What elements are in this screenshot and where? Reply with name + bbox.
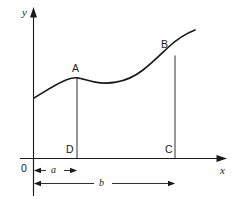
point-label-c: C xyxy=(165,144,173,154)
dimension-a-right-arrowhead xyxy=(70,168,77,173)
dimension-label-b: b xyxy=(99,178,104,188)
dimension-b xyxy=(34,179,175,189)
y-axis-label: y xyxy=(22,7,27,17)
drop-lines xyxy=(77,56,175,159)
x-axis-arrowhead xyxy=(217,155,228,162)
dimension-a-left-arrowhead xyxy=(34,168,41,173)
dimension-label-a: a xyxy=(51,165,56,175)
origin-label: 0 xyxy=(21,163,27,173)
figure-container: y x 0 A B D C a b xyxy=(0,0,239,199)
y-axis-arrowhead xyxy=(30,7,37,18)
dimension-b-left-arrowhead xyxy=(34,181,41,186)
dimension-b-right-arrowhead xyxy=(168,181,175,186)
curve-path xyxy=(34,30,195,98)
point-label-a: A xyxy=(72,63,79,73)
function-curve xyxy=(34,30,195,98)
point-label-b: B xyxy=(161,39,168,49)
x-axis xyxy=(20,155,227,162)
x-axis-label: x xyxy=(220,165,225,175)
point-label-d: D xyxy=(66,144,74,154)
graph-canvas xyxy=(0,0,239,199)
